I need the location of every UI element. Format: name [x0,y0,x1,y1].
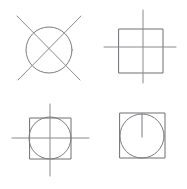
figure-circle-with-x [17,16,81,80]
figure-sheet [0,0,187,189]
figure-square-with-cross [104,10,176,83]
square-outline [119,29,163,73]
figure-square-circle-with-pointer [120,113,165,158]
circle-outline [26,27,72,73]
figure-square-circle-with-cross [12,104,89,176]
line-drawing-canvas [0,0,187,189]
